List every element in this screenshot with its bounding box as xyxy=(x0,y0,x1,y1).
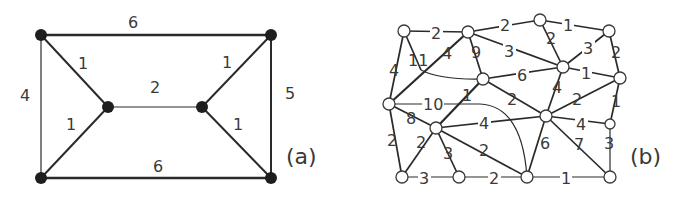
weight-label: 2 xyxy=(150,78,160,97)
weight-label: 5 xyxy=(285,84,295,103)
weight-label: 4 xyxy=(479,114,489,133)
caption-a: (a) xyxy=(286,144,317,169)
weight-label: 4 xyxy=(20,86,30,105)
weight-label: 2 xyxy=(431,24,441,43)
node-b xyxy=(383,98,395,110)
weight-label: 6 xyxy=(517,66,527,85)
weight-label: 1 xyxy=(78,54,88,73)
node-a-bl xyxy=(35,172,47,184)
node-a-br xyxy=(265,172,277,184)
node-b xyxy=(604,171,616,183)
node-b xyxy=(430,122,442,134)
node-a-ml xyxy=(102,101,114,113)
weight-label: 6 xyxy=(128,13,138,32)
weight-label: 2 xyxy=(611,43,621,62)
edge-a-tl-ml xyxy=(41,35,108,107)
weight-label: 8 xyxy=(406,109,416,128)
weight-label: 2 xyxy=(572,90,582,109)
weight-label: 1 xyxy=(581,64,591,83)
weight-label: 4 xyxy=(442,44,452,63)
weight-label: 2 xyxy=(387,131,397,150)
node-b xyxy=(398,25,410,37)
weight-label: 9 xyxy=(471,43,481,62)
weight-label: 2 xyxy=(507,90,517,109)
weight-label: 1 xyxy=(66,115,76,134)
weight-label: 1 xyxy=(222,53,232,72)
node-b xyxy=(534,14,546,26)
weight-label: 3 xyxy=(419,169,429,188)
weight-label: 1 xyxy=(462,86,472,105)
weight-label: 3 xyxy=(604,134,614,153)
graph-b-labels: 2 2 1 3 2 3 2 1 6 9 4 11 4 1 2 4 2 1 8 1… xyxy=(387,16,661,188)
weight-label: 11 xyxy=(408,51,428,70)
node-b xyxy=(557,61,569,73)
node-b xyxy=(477,73,489,85)
weight-label: 6 xyxy=(540,134,550,153)
weight-label: 10 xyxy=(423,95,443,114)
weight-label: 1 xyxy=(561,169,571,188)
weight-label: 2 xyxy=(489,169,499,188)
weight-label: 2 xyxy=(500,16,510,35)
weight-label: 2 xyxy=(479,141,489,160)
node-a-tl xyxy=(35,29,47,41)
weight-label: 3 xyxy=(504,42,514,61)
node-a-tr xyxy=(265,29,277,41)
weight-label: 1 xyxy=(611,92,621,111)
weight-label: 7 xyxy=(574,135,584,154)
weight-label: 3 xyxy=(583,39,593,58)
edge-a-tr-mr xyxy=(202,35,271,107)
weight-label: 1 xyxy=(563,16,573,35)
weight-label: 2 xyxy=(546,29,556,48)
caption-b: (b) xyxy=(630,144,661,169)
node-b xyxy=(605,119,615,129)
weight-label: 2 xyxy=(416,133,426,152)
node-b xyxy=(396,171,408,183)
weight-label: 4 xyxy=(552,78,562,97)
node-a-mr xyxy=(196,101,208,113)
edge-curve xyxy=(421,70,483,79)
node-b xyxy=(540,110,552,122)
node-b xyxy=(603,25,615,37)
node-b xyxy=(614,72,626,84)
node-b xyxy=(521,171,533,183)
figure: 6 6 4 5 1 1 2 1 1 (a) xyxy=(0,0,675,199)
node-b xyxy=(462,26,474,38)
node-b xyxy=(453,171,465,183)
weight-label: 3 xyxy=(443,144,453,163)
weight-label: 6 xyxy=(153,157,163,176)
weight-label: 4 xyxy=(576,115,586,134)
weight-label: 4 xyxy=(389,61,399,80)
weight-label: 1 xyxy=(233,115,243,134)
